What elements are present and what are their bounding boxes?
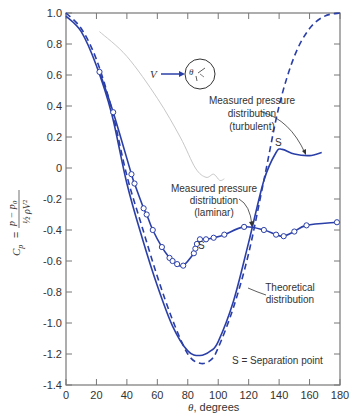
data-point-marker bbox=[261, 227, 266, 232]
data-point-marker bbox=[144, 212, 149, 217]
turbulent-annotation: Measured pressure distribution (turbulen… bbox=[209, 95, 306, 155]
svg-text:p − p0: p − p0 bbox=[6, 200, 19, 227]
y-tick-label: 0.4 bbox=[47, 100, 62, 112]
svg-text:distribution: distribution bbox=[228, 108, 276, 119]
svg-text:(laminar): (laminar) bbox=[194, 207, 233, 218]
x-tick-label: 80 bbox=[182, 389, 194, 401]
y-tick-label: 0.2 bbox=[47, 131, 62, 143]
x-tick-label: 20 bbox=[90, 389, 102, 401]
x-tick-label: 40 bbox=[121, 389, 133, 401]
velocity-label: V bbox=[150, 68, 158, 80]
svg-text:Measured pressure: Measured pressure bbox=[171, 183, 258, 194]
svg-text:½ ρV²: ½ ρV² bbox=[21, 199, 32, 224]
x-tick-label: 160 bbox=[300, 389, 318, 401]
svg-text:distribution: distribution bbox=[190, 195, 238, 206]
data-point-marker bbox=[150, 227, 155, 232]
data-point-marker bbox=[181, 263, 186, 268]
y-tick-label: -0.8 bbox=[43, 286, 62, 298]
data-point-marker bbox=[159, 244, 164, 249]
separation-marker-turbulent: S bbox=[275, 137, 282, 148]
x-tick-label: 100 bbox=[209, 389, 227, 401]
x-tick-label: 0 bbox=[63, 389, 69, 401]
separation-marker-laminar: S bbox=[198, 240, 205, 251]
y-tick-label: -1.4 bbox=[43, 379, 62, 391]
y-tick-label: 1.0 bbox=[47, 7, 62, 19]
y-tick-label: -1.2 bbox=[43, 348, 62, 360]
data-point-marker bbox=[141, 206, 146, 211]
y-tick-label: -0.6 bbox=[43, 255, 62, 267]
x-tick-label: 140 bbox=[270, 389, 288, 401]
laminar-arrow-icon bbox=[239, 199, 252, 225]
y-axis-title: Cp = p − p0 ½ ρV² bbox=[6, 190, 32, 256]
svg-text:distribution: distribution bbox=[266, 294, 314, 305]
x-axis-title: θ, degrees bbox=[188, 401, 240, 413]
data-point-marker bbox=[222, 232, 227, 237]
svg-text:Cp: Cp bbox=[10, 245, 25, 256]
y-tick-label: 0.6 bbox=[47, 69, 62, 81]
x-tick-label: 180 bbox=[331, 389, 349, 401]
data-point-marker bbox=[273, 232, 278, 237]
data-point-marker bbox=[211, 235, 216, 240]
y-tick-label: -0.2 bbox=[43, 193, 62, 205]
data-point-marker bbox=[281, 234, 286, 239]
svg-text:=: = bbox=[10, 232, 22, 238]
theoretical-annotation: Theoretical distribution bbox=[248, 282, 315, 305]
y-tick-label: -1.0 bbox=[43, 317, 62, 329]
y-tick-label: 0.8 bbox=[47, 38, 62, 50]
data-point-marker bbox=[304, 223, 309, 228]
svg-text:Theoretical: Theoretical bbox=[265, 282, 314, 293]
y-tick-label: -0.4 bbox=[43, 224, 62, 236]
y-tick-label: 0 bbox=[56, 162, 62, 174]
data-point-marker bbox=[129, 172, 134, 177]
data-point-marker bbox=[97, 69, 102, 74]
pressure-coefficient-chart: 0204060801001201401601801.00.80.60.40.20… bbox=[0, 0, 357, 419]
separation-legend: S = Separation point bbox=[232, 355, 323, 366]
laminar-annotation: Measured pressure distribution (laminar) bbox=[171, 183, 258, 227]
arrow-head-icon bbox=[179, 71, 185, 77]
data-point-marker bbox=[334, 220, 339, 225]
theoretical-arrow-icon bbox=[248, 288, 266, 295]
x-tick-label: 120 bbox=[239, 389, 257, 401]
cylinder-inset: V θ bbox=[150, 59, 215, 89]
data-point-marker bbox=[175, 262, 180, 267]
x-tick-label: 60 bbox=[151, 389, 163, 401]
data-point-marker bbox=[242, 224, 247, 229]
svg-text:θ, degrees: θ, degrees bbox=[188, 401, 240, 413]
theta-inset-label: θ bbox=[189, 67, 194, 77]
series-line bbox=[99, 32, 224, 181]
data-point-marker bbox=[111, 110, 116, 115]
data-point-marker bbox=[292, 229, 297, 234]
svg-text:Measured pressure: Measured pressure bbox=[209, 95, 296, 106]
data-point-marker bbox=[132, 181, 137, 186]
svg-text:(turbulent): (turbulent) bbox=[229, 121, 275, 132]
